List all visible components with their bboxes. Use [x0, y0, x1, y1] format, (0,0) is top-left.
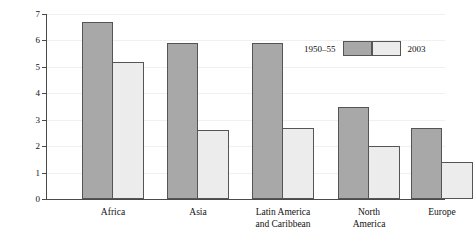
bar — [82, 22, 113, 199]
y-tick-label: 7 — [36, 9, 41, 19]
y-tick-label: 5 — [36, 62, 41, 72]
category-label: Asia — [189, 206, 206, 218]
y-tick-label: 6 — [36, 35, 41, 45]
legend-swatch-1950-55 — [343, 41, 372, 56]
y-tick-mark — [42, 93, 46, 94]
legend-swatches — [343, 41, 401, 56]
bar — [198, 130, 229, 199]
y-tick-mark — [42, 146, 46, 147]
category-label: Latin America and Caribbean — [255, 206, 310, 230]
y-tick-mark — [42, 67, 46, 68]
x-axis-line — [46, 199, 445, 200]
legend: 1950–55 2003 — [297, 41, 433, 56]
legend-label-1950-55: 1950–55 — [297, 44, 343, 54]
bar — [283, 128, 314, 199]
bar — [252, 43, 283, 199]
y-tick-mark — [42, 14, 46, 15]
y-tick-label: 2 — [36, 141, 41, 151]
y-tick-mark — [42, 173, 46, 174]
y-tick-mark — [42, 199, 46, 200]
category-label: Europe — [428, 206, 455, 218]
category-label: North America — [353, 206, 386, 230]
y-tick-mark — [42, 40, 46, 41]
bar — [167, 43, 198, 199]
bar — [369, 146, 400, 199]
gridline — [47, 14, 445, 15]
y-tick-label: 1 — [36, 168, 41, 178]
y-tick-label: 0 — [36, 194, 41, 204]
bar — [113, 62, 144, 199]
legend-swatch-2003 — [372, 41, 401, 56]
y-tick-label: 4 — [36, 88, 41, 98]
legend-label-2003: 2003 — [401, 44, 433, 54]
y-tick-label: 3 — [36, 115, 41, 125]
y-tick-mark — [42, 120, 46, 121]
category-label: Africa — [101, 206, 125, 218]
bar — [338, 107, 369, 200]
bar — [411, 128, 442, 199]
bar — [442, 162, 473, 199]
